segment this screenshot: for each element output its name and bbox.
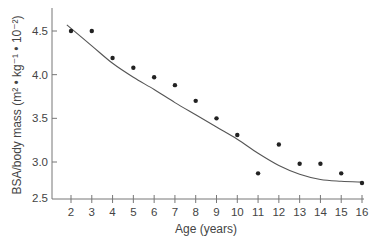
x-tick-label: 15 <box>335 206 348 218</box>
y-tick-label: 4.0 <box>32 69 48 81</box>
data-point <box>90 29 94 33</box>
data-point <box>256 171 260 175</box>
data-point <box>297 162 301 166</box>
x-tick-label: 4 <box>109 206 116 218</box>
data-point <box>235 133 239 137</box>
data-point <box>110 56 114 60</box>
data-point <box>339 171 343 175</box>
data-point <box>69 29 73 33</box>
x-tick-label: 8 <box>193 206 199 218</box>
fitted-curve <box>67 25 362 182</box>
x-tick-label: 9 <box>213 206 219 218</box>
data-point <box>214 116 218 120</box>
data-point <box>131 65 135 69</box>
y-tick-label: 3.5 <box>32 112 48 124</box>
x-tick-label: 13 <box>293 206 306 218</box>
x-tick-label: 3 <box>89 206 95 218</box>
data-points <box>69 29 364 185</box>
x-tick-label: 5 <box>130 206 136 218</box>
y-tick-label: 4.5 <box>32 25 48 37</box>
y-tick-label: 3.0 <box>32 156 48 168</box>
scatter-chart: 2.53.03.54.04.52345678910111213141516 <box>0 0 376 245</box>
x-tick-label: 2 <box>68 206 74 218</box>
data-point <box>173 83 177 87</box>
data-point <box>194 99 198 103</box>
x-tick-label: 16 <box>356 206 369 218</box>
fit-line <box>67 25 362 182</box>
x-tick-label: 7 <box>172 206 178 218</box>
x-axis-label: Age (years) <box>0 222 376 236</box>
data-point <box>152 75 156 79</box>
data-point <box>318 162 322 166</box>
data-point <box>360 181 364 185</box>
x-tick-label: 12 <box>272 206 285 218</box>
data-point <box>277 142 281 146</box>
x-tick-label: 6 <box>151 206 157 218</box>
x-tick-label: 14 <box>314 206 327 218</box>
x-tick-label: 11 <box>252 206 264 218</box>
y-tick-label: 2.5 <box>32 192 48 204</box>
y-axis-label: BSA/body mass (m² • kg⁻¹ • 10⁻²) <box>10 15 24 194</box>
axes: 2.53.03.54.04.52345678910111213141516 <box>32 8 368 218</box>
x-tick-label: 10 <box>231 206 244 218</box>
